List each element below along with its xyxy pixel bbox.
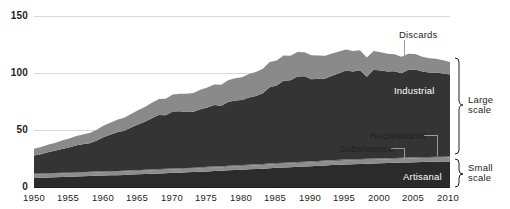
series-label-subsistence: Subsistence (340, 143, 394, 154)
x-axis-tick-1965: 1965 (117, 192, 157, 203)
small-scale-bracket (455, 159, 463, 187)
leader-line-subsistence-v (404, 148, 405, 160)
x-axis-tick-1985: 1985 (255, 192, 295, 203)
large-scale-bracket (455, 58, 463, 154)
leader-line-recreational-h (424, 135, 438, 136)
x-axis-tick-1975: 1975 (186, 192, 226, 203)
series-label-discards: Discards (399, 29, 438, 40)
bracket-label-small-scale: Small scale (468, 163, 493, 183)
series-label-industrial: Industrial (394, 85, 435, 96)
x-axis-baseline (34, 187, 450, 188)
x-axis-tick-1955: 1955 (48, 192, 88, 203)
leader-line-recreational-v (437, 135, 438, 156)
bracket-label-large-scale: Large scale (468, 95, 493, 115)
leader-line-discards (404, 40, 405, 56)
chart-root: 150 100 50 0 1950 1955 1960 1965 1970 19… (0, 0, 510, 209)
x-axis-tick-2005: 2005 (393, 192, 433, 203)
bracket-label-small-scale-line2: scale (468, 172, 491, 183)
series-label-artisanal: Artisanal (403, 171, 442, 182)
leader-line-subsistence-h (391, 148, 405, 149)
bracket-label-large-scale-line2: scale (468, 104, 491, 115)
x-axis-tick-1995: 1995 (324, 192, 364, 203)
series-label-recreational: Recreational (370, 130, 426, 141)
